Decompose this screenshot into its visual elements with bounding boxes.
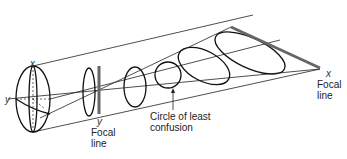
y-focal-label-line2: line [91,138,107,149]
lens-x-label: x [30,58,35,69]
x-focal-label-line1: Focal [317,79,341,90]
y-focal-label-line1: Focal [91,127,115,138]
astigmatism-diagram: x y y Focal line Circle of least confusi… [0,0,347,159]
cross-sections [83,23,291,116]
circle-label-line2: confusion [150,122,193,133]
diagram-canvas [0,0,347,159]
arrow-head-icon [171,88,175,93]
ray-lower-cross [40,27,231,118]
section-4 [172,40,236,93]
y-focal-axis-label: y [97,116,102,127]
x-focal-axis-label: x [326,68,331,79]
x-focal-label-line2: line [317,90,333,101]
x-focal-line [231,27,320,68]
section-5 [209,23,291,82]
lens-y-label: y [5,94,10,105]
ray-right [50,40,280,99]
circle-of-least-confusion [155,62,181,88]
circle-label-line1: Circle of least [150,111,211,122]
